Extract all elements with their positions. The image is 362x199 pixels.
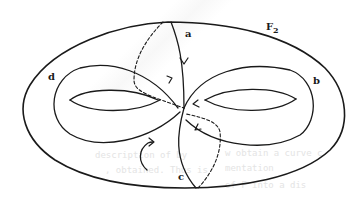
- curve-a-dashed: [134, 22, 184, 108]
- right-hole-lower: [205, 99, 296, 110]
- surface-diagram: a d b c F2: [0, 0, 362, 199]
- label-b: b: [313, 75, 320, 86]
- arrow-icon-d: [167, 76, 172, 83]
- label-surface-subscript: 2: [273, 25, 279, 35]
- label-c: c: [178, 171, 184, 182]
- label-surface: F2: [266, 21, 279, 35]
- curve-a-solid: [171, 22, 184, 108]
- label-d: d: [48, 71, 55, 82]
- arrow-icon-b-lower: [195, 124, 201, 130]
- curve-b: [184, 67, 313, 146]
- rotation-arrow: [140, 142, 153, 170]
- label-surface-main: F: [266, 21, 273, 32]
- left-hole-lower: [70, 100, 160, 111]
- left-hole: [70, 90, 158, 100]
- right-hole: [205, 89, 296, 100]
- label-a: a: [185, 28, 192, 39]
- curve-d: [54, 65, 180, 142]
- arrow-icon-b-upper: [193, 100, 199, 107]
